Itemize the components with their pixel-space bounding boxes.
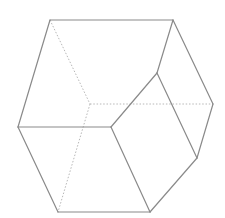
polyhedron-diagram (0, 0, 225, 218)
visible-edge-IE (111, 127, 150, 212)
visible-edge-DE (150, 158, 197, 212)
visible-edges (18, 20, 213, 212)
visible-edge-CD (197, 104, 213, 158)
visible-edge-HD (157, 73, 197, 158)
visible-edge-GA (18, 20, 50, 127)
visible-edge-BC (173, 20, 213, 104)
hidden-edge-AJ (50, 20, 90, 104)
visible-edge-BH (157, 20, 173, 73)
hidden-edge-JF (58, 104, 90, 212)
visible-edge-FG (18, 127, 58, 212)
hidden-edges (50, 20, 213, 212)
visible-edge-HI (111, 73, 157, 127)
